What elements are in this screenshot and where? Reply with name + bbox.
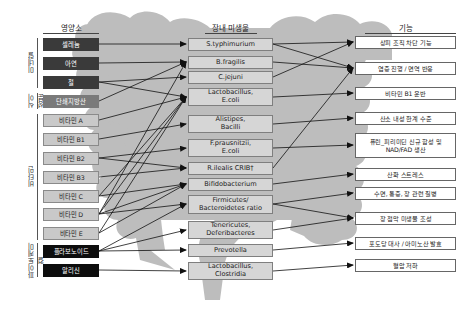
function-label: 상피 조직 차단 기능	[380, 39, 432, 47]
group-divider-phytochemicals	[37, 243, 38, 277]
diagram: 영양소 장내 미생물 기능 미네랄 식이 성분 비타민 파이토케미컬 셀레늄 아…	[0, 0, 466, 312]
microbe-label: B.fragilis	[216, 59, 245, 67]
nutrient-vitamin-a: 비타민 A	[43, 114, 99, 127]
function-glucose-amino-acid: 포도당 대사 / 아미노산 발효	[355, 237, 456, 250]
nutrient-selenium: 셀레늄	[43, 38, 99, 51]
function-oxygen-tolerance: 산소 내성 한계 수준	[355, 112, 456, 125]
microbe-f-prausnitzii-ecoli: F.prausnitzii,E.coli	[188, 139, 273, 157]
microbe-label: E.coli	[222, 97, 240, 105]
function-epithelial-barrier: 상피 조직 차단 기능	[355, 36, 456, 49]
group-divider-minerals	[37, 38, 38, 88]
header-microbes: 장내 미생물	[188, 22, 273, 33]
microbe-label: Bacilli	[221, 124, 241, 132]
microbe-label: C.jejuni	[218, 74, 243, 82]
microbe-s-typhimurium: S.typhimurium	[188, 38, 273, 51]
function-label: NAD/FAD 생산	[386, 146, 426, 154]
microbe-c-jejuni: C.jejuni	[188, 71, 273, 84]
function-label: 장 점막 미생물 조성	[380, 215, 432, 223]
nutrient-vitamin-b3: 비타민 B3	[43, 171, 99, 184]
function-label: 포도당 대사 / 아미노산 발효	[369, 240, 442, 248]
nutrient-zinc: 아연	[43, 57, 99, 70]
microbe-label: E.coli	[222, 148, 240, 156]
nutrient-vitamin-e: 비타민 E	[43, 227, 99, 240]
function-blood-pressure-lowering: 혈압 저하	[355, 259, 456, 272]
group-divider-vitamins	[37, 114, 38, 240]
microbe-alistipes-bacilli: Alistipes,Bacilli	[188, 115, 273, 133]
header-nutrients-underline	[43, 33, 99, 34]
function-label: 혈압 저하	[393, 262, 418, 270]
function-label: 산소 내성 한계 수준	[380, 115, 432, 123]
function-mucosal-microbiota: 장 점막 미생물 조성	[355, 212, 456, 225]
nutrient-vitamin-c: 비타민 C	[43, 190, 99, 203]
microbe-label: Bifidobacterium	[204, 181, 256, 189]
microbe-label: Bacteroidetes ratio	[199, 205, 262, 213]
microbe-label: S.typhimurium	[206, 41, 255, 49]
microbe-firmicutes-bacteroidetes-ratio: Firmicutes/Bacteroidetes ratio	[188, 195, 273, 214]
nutrient-allicin: 알리신	[43, 264, 99, 277]
nutrient-vitamin-b2: 비타민 B2	[43, 152, 99, 165]
nutrient-iron: 철	[43, 76, 99, 89]
microbe-prevotella: Prevotella	[188, 244, 273, 257]
function-label: 수면, 통증, 장 관련 질병	[374, 190, 437, 198]
function-sleep-pain-gut-disease: 수면, 통증, 장 관련 질병	[355, 187, 456, 200]
microbe-lactobacillus-clostridia: Lactobacillus,Clostridia	[188, 262, 273, 280]
nutrient-scfa: 단쇄지방산	[43, 95, 99, 108]
microbe-lactobacillus-ecoli: Lactobacillus,E.coli	[188, 88, 273, 106]
microbe-tenericutes-deferibacteres: Tenericutes,Deferibacteres	[188, 221, 273, 239]
function-purine-pyrimidine-nad-fad: 퓨린_피리미딘 신규 합성 및NAD/FAD 생산	[355, 133, 456, 158]
function-label: 염증 진행 / 면역 반응	[378, 65, 433, 73]
function-inflammation-immune: 염증 진행 / 면역 반응	[355, 62, 456, 75]
function-vitamin-b1-transport: 비타민 B1 운반	[355, 87, 456, 100]
header-functions-underline	[365, 33, 456, 34]
microbe-label: Clostridia	[215, 271, 246, 279]
function-label: 산화 스트레스	[387, 171, 424, 179]
microbe-b-fragilis: B.fragilis	[188, 56, 273, 69]
function-label: 비타민 B1 운반	[385, 90, 425, 98]
function-label: 퓨린_피리미딘 신규 합성 및	[370, 138, 442, 146]
nutrient-flavonoid: 플라보노이드	[43, 245, 99, 258]
header-microbes-underline	[205, 33, 257, 34]
header-functions: 기능	[355, 22, 456, 33]
microbe-label: R.ilealis CRIB†	[207, 165, 253, 173]
microbe-r-ilealis-crib: R.ilealis CRIB†	[188, 162, 273, 175]
nutrient-vitamin-d: 비타민 D	[43, 208, 99, 221]
nutrient-vitamin-b1: 비타민 B1	[43, 133, 99, 146]
group-divider-dietary	[37, 93, 38, 109]
microbe-label: Prevotella	[214, 247, 247, 255]
header-nutrients: 영양소	[43, 22, 99, 33]
group-label-vitamins: 비타민	[27, 114, 37, 240]
function-oxidative-stress: 산화 스트레스	[355, 168, 456, 181]
microbe-label: Deferibacteres	[206, 230, 255, 238]
group-label-minerals: 미네랄	[27, 38, 37, 88]
microbe-bifidobacterium: Bifidobacterium	[188, 178, 273, 191]
